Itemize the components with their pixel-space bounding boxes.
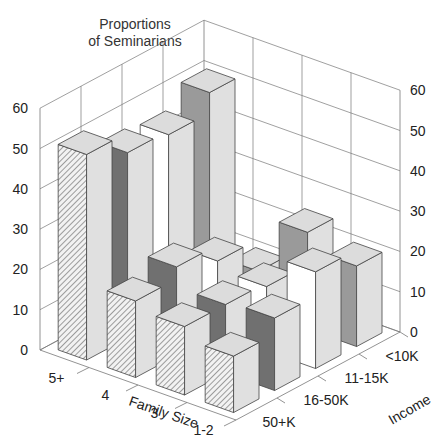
bar-side-face [275, 304, 300, 390]
z-tick-label-left: 40 [12, 181, 28, 197]
z-tick-label-right: 60 [410, 82, 426, 98]
bar-front-face [107, 291, 135, 378]
family-size-tick-label: 4 [102, 387, 110, 403]
bar-chart-3d: 001010202030304040505060605+431-250+K16-… [0, 0, 446, 443]
z-tick-label-right: 10 [410, 284, 426, 300]
z-tick-label-left: 10 [12, 302, 28, 318]
bar [156, 303, 210, 395]
bar-side-face [357, 252, 382, 346]
bar-side-face [316, 258, 341, 368]
bar [205, 332, 259, 412]
bar-front-face [156, 316, 184, 395]
income-tick-label: 11-15K [345, 370, 390, 386]
z-tick-label-left: 30 [12, 221, 28, 237]
bar-front-face [58, 144, 86, 360]
z-tick-label-right: 20 [410, 243, 426, 259]
z-tick-label-left: 20 [12, 261, 28, 277]
z-tick-label-left: 50 [12, 141, 28, 157]
income-tick [359, 354, 367, 359]
family-tick [77, 368, 89, 374]
income-axis-title: Income [386, 391, 434, 428]
income-tick-label: <10K [386, 348, 420, 364]
income-tick [400, 332, 408, 337]
family-size-axis-title: Family Size [127, 393, 201, 432]
income-tick [277, 398, 285, 403]
z-tick-label-right: 30 [410, 203, 426, 219]
z-tick-label-left: 0 [20, 342, 28, 358]
income-tick-label: 16-50K [304, 392, 350, 408]
z-tick-label-left: 60 [12, 100, 28, 116]
income-tick-label: 50+K [263, 414, 297, 430]
bar [58, 131, 112, 360]
family-tick [224, 420, 236, 426]
bar [107, 277, 161, 377]
z-tick-label-right: 40 [410, 163, 426, 179]
family-size-tick-label: 5+ [49, 370, 65, 386]
z-tick-label-right: 50 [410, 123, 426, 139]
z-tick-label-right: 0 [410, 324, 418, 340]
income-tick [318, 376, 326, 381]
bars [58, 69, 382, 413]
bar-front-face [205, 346, 233, 413]
family-tick [126, 385, 138, 391]
